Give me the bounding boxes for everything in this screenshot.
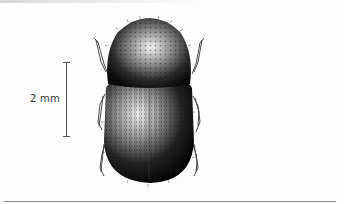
beetle-illustration <box>88 12 212 190</box>
scale-bar-label: 2 mm <box>30 93 60 104</box>
top-edge-shade <box>0 0 200 3</box>
scale-bar <box>66 62 67 137</box>
bottom-rule <box>4 201 336 202</box>
scale-bar-top-cap <box>63 62 70 63</box>
beetle-pronotum <box>107 18 191 88</box>
scale-bar-bottom-cap <box>63 136 70 137</box>
beetle-elytra <box>104 82 194 183</box>
specimen-figure: 2 mm <box>0 0 344 204</box>
